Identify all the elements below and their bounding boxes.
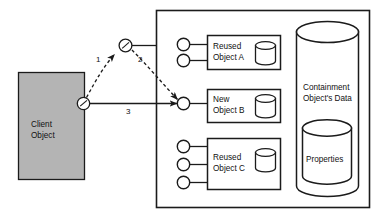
arrow-2-label: 2 — [138, 55, 143, 64]
containment-object-data-label-line1: Containment — [303, 83, 350, 92]
arrow-3-label: 3 — [126, 107, 131, 116]
reused-object-a-cylinder-icon — [256, 42, 276, 65]
reused-object-a-port-1[interactable] — [177, 38, 189, 50]
reused-object-c-port-2[interactable] — [177, 158, 189, 170]
reused-object-c-label-line1: Reused — [213, 153, 242, 162]
reused-object-a-port-2[interactable] — [177, 54, 189, 66]
reused-object-a-label-line1: Reused — [213, 42, 242, 51]
reused-object-c-port-3[interactable] — [177, 176, 189, 188]
reused-object-c-cylinder-icon — [256, 149, 276, 172]
containment-object-data-label-line2: Object's Data — [303, 94, 352, 103]
properties-store-top — [303, 120, 352, 136]
junction-node[interactable] — [119, 39, 156, 52]
client-object-label-line1: Client — [31, 120, 53, 129]
diagram-canvas: Client Object 1 2 3 — [0, 0, 387, 218]
new-object-b-cylinder-icon — [256, 95, 276, 118]
new-object-b-label-line1: New — [213, 95, 229, 104]
arrow-1: 1 — [87, 55, 115, 98]
reused-object-c-label-line2: Object C — [213, 164, 245, 173]
arrow-1-label: 1 — [96, 55, 101, 64]
properties-store[interactable]: Properties — [303, 120, 352, 184]
containment-object-data-top — [297, 22, 359, 43]
reused-object-a-label-line2: Object A — [213, 53, 244, 62]
client-object[interactable]: Client Object — [19, 73, 85, 180]
new-object-b-port[interactable] — [177, 97, 189, 109]
new-object-b-label-line2: Object B — [213, 106, 245, 115]
client-port[interactable] — [77, 97, 89, 109]
reused-object-c-port-1[interactable] — [177, 140, 189, 152]
properties-store-label: Properties — [306, 155, 343, 164]
arrow-1-path — [87, 55, 115, 98]
client-object-label-line2: Object — [31, 131, 55, 140]
reused-object-c[interactable]: Reused Object C — [177, 139, 280, 190]
